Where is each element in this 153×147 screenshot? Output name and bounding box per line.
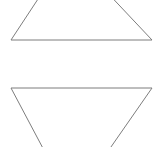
- drawing-canvas: [0, 0, 153, 147]
- shapes-svg: [0, 0, 153, 147]
